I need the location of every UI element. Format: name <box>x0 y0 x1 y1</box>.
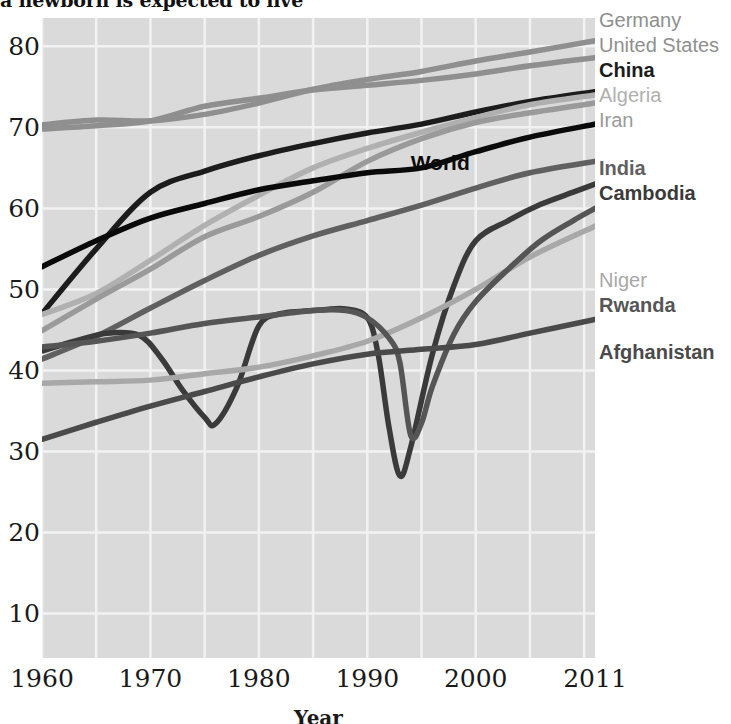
series-line-world <box>42 124 595 267</box>
legend-label-iran: Iran <box>599 110 633 130</box>
x-axis-tick-label: 1970 <box>119 664 183 693</box>
y-axis-tick-label: 30 <box>2 437 40 466</box>
legend-label-afghanistan: Afghanistan <box>599 342 715 362</box>
legend-label-niger: Niger <box>599 270 647 290</box>
x-axis-tick-label: 1990 <box>335 664 399 693</box>
inline-series-label-world: World <box>411 151 470 175</box>
y-axis-tick-label: 10 <box>2 599 40 628</box>
y-axis-tick-labels: 1020304050607080 <box>0 18 40 658</box>
x-axis-tick-label: 1980 <box>227 664 291 693</box>
y-axis-tick-label: 80 <box>2 32 40 61</box>
legend-label-united-states: United States <box>599 35 719 55</box>
data-series-group <box>42 41 595 477</box>
legend-label-algeria: Algeria <box>599 85 661 105</box>
x-axis-title: Year <box>42 706 595 724</box>
legend-label-china: China <box>599 60 655 80</box>
y-axis-tick-label: 60 <box>2 194 40 223</box>
y-axis-tick-label: 50 <box>2 275 40 304</box>
chart-svg <box>42 18 595 658</box>
legend-label-germany: Germany <box>599 10 681 30</box>
x-axis-tick-labels: 196019701980199020002011 <box>42 664 595 698</box>
chart-title: a newborn is expected to live <box>0 0 420 11</box>
y-axis-tick-label: 20 <box>2 518 40 547</box>
y-axis-tick-label: 40 <box>2 356 40 385</box>
plot-area <box>42 18 595 658</box>
series-line-niger <box>42 226 595 383</box>
legend-label-cambodia: Cambodia <box>599 183 696 203</box>
x-axis-tick-label: 2000 <box>444 664 508 693</box>
legend: GermanyUnited StatesChinaAlgeriaIranIndi… <box>599 0 731 723</box>
series-line-germany <box>42 41 595 125</box>
legend-label-india: India <box>599 158 646 178</box>
x-axis-tick-label: 1960 <box>10 664 74 693</box>
y-axis-tick-label: 70 <box>2 113 40 142</box>
legend-label-rwanda: Rwanda <box>599 295 676 315</box>
